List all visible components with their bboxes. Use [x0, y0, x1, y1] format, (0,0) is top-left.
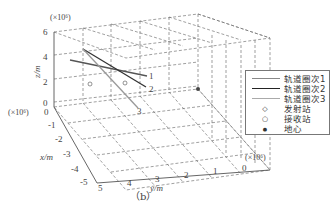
earth-center-marker — [196, 87, 200, 91]
diamond-icon: ◇ — [260, 104, 270, 114]
z-axis-label: z/m — [32, 65, 42, 79]
x-tick: -1 — [48, 120, 56, 130]
y-tick: 2 — [184, 170, 189, 180]
receiving-station-marker — [123, 81, 127, 85]
x-exponent: (×10⁶) — [8, 108, 29, 117]
line-swatch-icon — [252, 78, 280, 79]
figure-caption: （b） — [130, 188, 156, 203]
legend-item: ● 地心 — [246, 124, 331, 134]
y-tick: 4 — [127, 178, 132, 188]
y-tick: 5 — [98, 183, 103, 193]
orbit-line-1 — [70, 60, 147, 76]
z-tick: 4 — [43, 52, 48, 62]
y-tick: 0 — [242, 163, 247, 173]
legend-item: ○ 接收站 — [246, 114, 331, 124]
legend-item: 轨道圈次2 — [246, 84, 331, 94]
y-tick: 1 — [213, 166, 218, 176]
orbit-label-1: 1 — [149, 71, 154, 81]
line-swatch-icon — [252, 98, 280, 99]
circle-icon: ○ — [260, 114, 270, 124]
receiving-station-marker — [88, 82, 92, 86]
x-axis-label: x/m — [39, 152, 53, 162]
legend-item: ◇ 发射站 — [246, 104, 331, 114]
orbit-line-3 — [83, 49, 138, 108]
x-tick: -2 — [55, 134, 63, 144]
y-exponent: (×10⁶) — [245, 153, 266, 162]
x-tick: 0 — [44, 107, 49, 117]
dot-icon: ● — [260, 124, 270, 134]
line-swatch-icon — [252, 88, 280, 89]
z-tick: 6 — [43, 27, 48, 37]
legend-item: 轨道圈次3 — [246, 94, 331, 104]
legend: 轨道圈次1 轨道圈次2 轨道圈次3 ◇ 发射站 ○ 接收站 ● 地心 — [245, 70, 330, 135]
orbit-label-3: 3 — [137, 106, 142, 116]
x-tick: -3 — [63, 149, 71, 159]
orbit-line-2 — [83, 49, 146, 87]
x-tick: -4 — [71, 164, 79, 174]
z-tick: 2 — [43, 77, 48, 87]
orbit-label-2: 2 — [149, 84, 154, 94]
legend-item: 轨道圈次1 — [246, 74, 331, 84]
z-exponent: (×10⁶) — [50, 13, 71, 22]
x-tick: -5 — [80, 177, 88, 187]
